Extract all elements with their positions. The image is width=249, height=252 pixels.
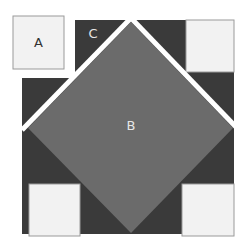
piece-a: A (13, 16, 64, 69)
label-a: A (34, 35, 43, 50)
light-square-bottom-left (29, 184, 80, 236)
quilt-block-diagram: A C B (0, 0, 249, 252)
label-b: B (127, 118, 136, 133)
light-square-top-right (186, 20, 234, 72)
label-c: C (88, 26, 97, 41)
light-square-bottom-right (182, 184, 234, 236)
